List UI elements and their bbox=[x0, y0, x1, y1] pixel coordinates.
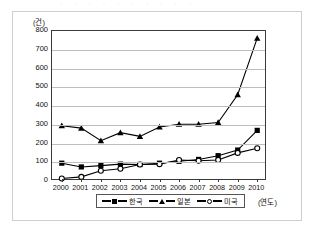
series-미국 bbox=[59, 146, 259, 181]
data-point-marker bbox=[255, 146, 260, 151]
legend-line bbox=[102, 200, 111, 202]
legend-label: 한국 bbox=[128, 196, 144, 206]
x-axis-tick-mark bbox=[160, 179, 161, 182]
gridline bbox=[52, 144, 265, 145]
data-point-marker bbox=[254, 35, 260, 41]
legend-label: 미국 bbox=[223, 196, 239, 206]
legend-marker-filled-triangle-icon bbox=[159, 199, 165, 204]
data-point-marker bbox=[98, 168, 103, 173]
x-axis-tick-mark bbox=[257, 179, 258, 182]
gridline bbox=[52, 162, 265, 163]
y-axis-tick-label: 400 bbox=[22, 101, 48, 109]
data-point-marker bbox=[234, 92, 240, 98]
data-point-marker bbox=[235, 150, 240, 155]
x-axis-tick-mark bbox=[101, 179, 102, 182]
x-axis-tick-mark bbox=[179, 179, 180, 182]
y-axis-tick-label: 700 bbox=[22, 45, 48, 53]
y-axis-tick-label: 100 bbox=[22, 157, 48, 165]
gridline bbox=[52, 87, 265, 88]
y-axis-tick-labels: 0100200300400500600700800 bbox=[20, 30, 48, 180]
data-point-marker bbox=[117, 129, 123, 135]
series-일본 bbox=[59, 35, 261, 143]
legend-line bbox=[197, 200, 206, 202]
data-point-marker bbox=[98, 137, 104, 143]
x-axis-tick-mark bbox=[238, 179, 239, 182]
x-axis-tick-mark bbox=[199, 179, 200, 182]
data-point-marker bbox=[255, 128, 260, 133]
y-axis-tick-label: 300 bbox=[22, 120, 48, 128]
legend-line bbox=[149, 200, 158, 202]
legend-marker-open-circle-icon bbox=[207, 199, 212, 204]
legend-marker-filled-square-icon bbox=[112, 199, 117, 204]
x-axis-tick-mark bbox=[218, 179, 219, 182]
gridline bbox=[52, 69, 265, 70]
legend-line bbox=[166, 200, 175, 202]
x-axis-name-label: (연도) bbox=[258, 196, 277, 207]
x-axis-tick-mark bbox=[81, 179, 82, 182]
data-point-marker bbox=[79, 164, 84, 169]
gridline bbox=[52, 125, 265, 126]
top-text-fragment: · · · · · · · · · · bbox=[60, 0, 250, 8]
chart-screenshot: · · · · · · · · · · (건) 0100200300400500… bbox=[0, 0, 314, 228]
data-point-marker bbox=[98, 163, 103, 168]
y-axis-tick-label: 500 bbox=[22, 82, 48, 90]
legend-item-일본[interactable]: 일본 bbox=[149, 196, 192, 206]
legend-item-한국[interactable]: 한국 bbox=[102, 196, 144, 206]
x-axis-tick-mark bbox=[62, 179, 63, 182]
chart-legend: 한국일본미국 bbox=[96, 194, 245, 208]
legend-line bbox=[213, 200, 222, 202]
legend-item-미국[interactable]: 미국 bbox=[197, 196, 239, 206]
gridline bbox=[52, 106, 265, 107]
gridline bbox=[52, 50, 265, 51]
x-axis-tick-mark bbox=[120, 179, 121, 182]
legend-label: 일본 bbox=[176, 196, 192, 206]
x-axis-tick-mark bbox=[140, 179, 141, 182]
data-point-marker bbox=[118, 166, 123, 171]
plot-area bbox=[51, 30, 266, 180]
y-axis-tick-label: 800 bbox=[22, 26, 48, 34]
y-axis-tick-label: 0 bbox=[22, 176, 48, 184]
y-axis-tick-label: 600 bbox=[22, 64, 48, 72]
legend-line bbox=[118, 200, 127, 202]
y-axis-tick-label: 200 bbox=[22, 139, 48, 147]
x-axis-tick-label: 2010 bbox=[244, 183, 268, 193]
